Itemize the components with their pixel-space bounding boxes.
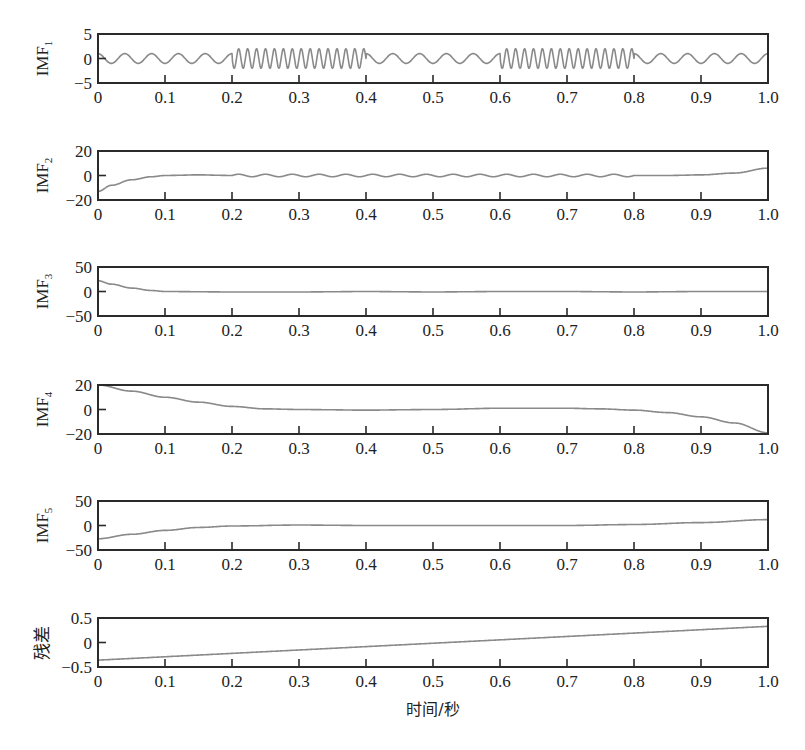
x-tick-label: 1.0 — [757, 205, 778, 224]
y-axis-label: IMF3 — [33, 273, 54, 309]
y-tick-label: −5 — [74, 74, 92, 93]
x-tick-label: 0.4 — [355, 205, 377, 224]
x-tick-label: 0.9 — [690, 205, 711, 224]
y-tick-label: −20 — [65, 425, 92, 444]
y-tick-label: 20 — [75, 376, 92, 395]
y-tick-label: 0 — [84, 517, 93, 536]
y-tick-label: 0 — [84, 283, 93, 302]
x-tick-label: 0.4 — [355, 672, 377, 691]
y-tick-label: 50 — [75, 258, 92, 277]
y-tick-label: 0.5 — [71, 609, 92, 628]
x-tick-label: 0.6 — [489, 439, 510, 458]
y-tick-label: 0 — [84, 634, 93, 653]
series-line-IMF2 — [98, 168, 768, 191]
x-tick-label: 0 — [94, 555, 103, 574]
x-tick-label: 0.3 — [288, 555, 309, 574]
x-tick-label: 0.4 — [355, 439, 377, 458]
x-tick-label: 0.8 — [623, 88, 644, 107]
x-tick-label: 1.0 — [757, 439, 778, 458]
x-tick-label: 0.3 — [288, 205, 309, 224]
x-tick-label: 0.7 — [556, 205, 578, 224]
x-tick-label: 0.9 — [690, 321, 711, 340]
x-tick-label: 0.8 — [623, 321, 644, 340]
x-tick-label: 0.1 — [154, 672, 175, 691]
x-tick-label: 0.6 — [489, 672, 510, 691]
x-tick-label: 0.7 — [556, 439, 578, 458]
x-tick-label: 0 — [94, 321, 103, 340]
series-line-IMF5 — [98, 520, 768, 539]
x-tick-label: 0.4 — [355, 321, 377, 340]
y-axis-label: IMF2 — [33, 158, 54, 194]
x-tick-label: 1.0 — [757, 672, 778, 691]
x-tick-label: 0.7 — [556, 88, 578, 107]
x-tick-label: 0.7 — [556, 555, 578, 574]
series-line-IMF3 — [98, 281, 768, 292]
x-tick-label: 0.5 — [422, 321, 443, 340]
x-tick-label: 0.7 — [556, 321, 578, 340]
x-tick-label: 0.3 — [288, 321, 309, 340]
x-tick-label: 0.9 — [690, 672, 711, 691]
x-tick-label: 0 — [94, 672, 103, 691]
x-tick-label: 0.9 — [690, 439, 711, 458]
chart-canvas: 00.10.20.30.40.50.60.70.80.91.050−5IMF10… — [0, 0, 805, 750]
y-tick-label: 5 — [84, 25, 93, 44]
x-tick-label: 0.2 — [221, 555, 242, 574]
x-tick-label: 0.6 — [489, 88, 510, 107]
y-tick-label: 50 — [75, 492, 92, 511]
series-line-残差 — [98, 626, 768, 660]
x-tick-label: 0.1 — [154, 321, 175, 340]
series-line-IMF1 — [98, 49, 768, 69]
x-tick-label: 0.2 — [221, 88, 242, 107]
y-axis-label: 残差 — [33, 626, 52, 660]
x-axis-title: 时间/秒 — [406, 700, 459, 719]
subplot-3: 00.10.20.30.40.50.60.70.80.91.0500−50IMF… — [33, 258, 779, 340]
x-tick-label: 0.7 — [556, 672, 578, 691]
x-tick-label: 0.8 — [623, 555, 644, 574]
x-tick-label: 0 — [94, 439, 103, 458]
y-tick-label: −50 — [65, 541, 92, 560]
y-tick-label: 0 — [84, 50, 93, 69]
subplot-4: 00.10.20.30.40.50.60.70.80.91.0200−20IMF… — [33, 376, 779, 458]
x-tick-label: 0.2 — [221, 205, 242, 224]
x-tick-label: 0 — [94, 88, 103, 107]
y-tick-label: 0 — [84, 401, 93, 420]
x-tick-label: 0.1 — [154, 88, 175, 107]
y-tick-label: 20 — [75, 142, 92, 161]
y-tick-label: −0.5 — [61, 658, 92, 677]
x-tick-label: 0.5 — [422, 205, 443, 224]
x-tick-label: 0.5 — [422, 672, 443, 691]
subplot-1: 00.10.20.30.40.50.60.70.80.91.050−5IMF1 — [33, 25, 779, 107]
x-tick-label: 0.4 — [355, 88, 377, 107]
x-tick-label: 0.4 — [355, 555, 377, 574]
x-tick-label: 1.0 — [757, 321, 778, 340]
x-tick-label: 0.6 — [489, 321, 510, 340]
x-tick-label: 0.8 — [623, 439, 644, 458]
x-tick-label: 0.3 — [288, 672, 309, 691]
imf-decomposition-figure: 00.10.20.30.40.50.60.70.80.91.050−5IMF10… — [0, 0, 805, 750]
x-tick-label: 0.3 — [288, 439, 309, 458]
x-tick-label: 0.6 — [489, 555, 510, 574]
x-tick-label: 0.1 — [154, 439, 175, 458]
y-tick-label: 0 — [84, 167, 93, 186]
x-tick-label: 0.9 — [690, 88, 711, 107]
x-tick-label: 0.2 — [221, 321, 242, 340]
x-tick-label: 0.9 — [690, 555, 711, 574]
x-tick-label: 1.0 — [757, 555, 778, 574]
x-tick-label: 0.5 — [422, 88, 443, 107]
x-tick-label: 0.1 — [154, 205, 175, 224]
y-tick-label: −50 — [65, 307, 92, 326]
x-tick-label: 0.8 — [623, 205, 644, 224]
series-line-IMF4 — [98, 385, 768, 433]
x-tick-label: 1.0 — [757, 88, 778, 107]
subplot-2: 00.10.20.30.40.50.60.70.80.91.0200−20IMF… — [33, 142, 779, 224]
subplot-6: 00.10.20.30.40.50.60.70.80.91.00.50−0.5残… — [33, 609, 779, 691]
x-tick-label: 0.8 — [623, 672, 644, 691]
x-tick-label: 0.6 — [489, 205, 510, 224]
x-tick-label: 0.2 — [221, 672, 242, 691]
x-tick-label: 0.1 — [154, 555, 175, 574]
x-tick-label: 0.5 — [422, 555, 443, 574]
y-axis-label: IMF5 — [33, 507, 54, 543]
x-tick-label: 0.2 — [221, 439, 242, 458]
subplot-5: 00.10.20.30.40.50.60.70.80.91.0500−50IMF… — [33, 492, 779, 574]
y-tick-label: −20 — [65, 191, 92, 210]
